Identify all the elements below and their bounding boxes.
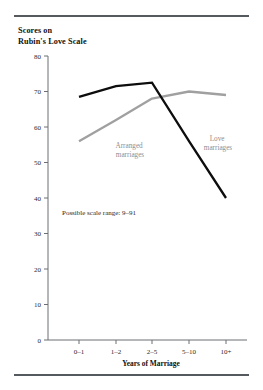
x-tick-label: 10+ <box>221 348 232 356</box>
series-line-arranged-marriages <box>79 92 226 142</box>
x-axis-title: Years of Marriage <box>122 359 180 368</box>
series-label-arranged-marriages: Arranged marriages <box>116 142 145 159</box>
series-line-love-marriages <box>79 83 226 198</box>
x-tick-label: 5–10 <box>182 348 197 356</box>
chart-canvas: 01020304050607080 0–11–22–55–1010+ Arran… <box>0 0 263 390</box>
y-tick-label: 70 <box>34 88 42 96</box>
x-tick-label: 1–2 <box>111 348 122 356</box>
y-tick-label: 50 <box>34 159 42 167</box>
scale-range-annotation: Possible scale range: 9–91 <box>62 209 137 217</box>
x-axis: 0–11–22–55–1010+ <box>48 340 247 356</box>
x-tick-label: 0–1 <box>74 348 85 356</box>
y-tick-label: 10 <box>34 301 42 309</box>
y-tick-label: 0 <box>38 337 42 345</box>
y-tick-label: 60 <box>34 124 42 132</box>
x-tick-label: 2–5 <box>147 348 158 356</box>
line-chart-svg: 01020304050607080 0–11–22–55–1010+ Arran… <box>0 0 263 390</box>
y-tick-label: 80 <box>34 53 42 61</box>
y-tick-label: 30 <box>34 230 42 238</box>
y-axis: 01020304050607080 <box>34 53 48 345</box>
y-tick-label: 40 <box>34 195 42 203</box>
y-tick-label: 20 <box>34 266 42 274</box>
series-label-love-marriages: Love marriages <box>204 135 233 152</box>
